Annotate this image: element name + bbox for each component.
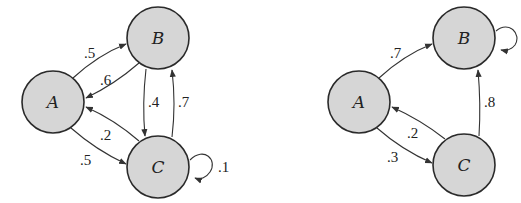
node-right-a: A — [328, 71, 390, 133]
node-left-c: C — [127, 136, 189, 198]
edge-label-left-a-to-b: .5 — [84, 45, 95, 61]
edge-left-c-to-b — [172, 70, 174, 137]
node-label-right-a: A — [351, 92, 365, 112]
node-right-c: C — [433, 134, 495, 196]
edge-left-c-to-a — [86, 107, 139, 141]
edge-right-a-to-b — [379, 44, 432, 78]
edge-left-b-to-a — [86, 63, 139, 98]
edge-label-left-c-self-loop: .1 — [218, 159, 229, 175]
node-left-b: B — [127, 7, 189, 69]
edge-label-right-c-to-a: .2 — [407, 125, 418, 141]
edge-left-c-self-loop — [190, 154, 212, 179]
left-markov-chain: .5 .6 .4 .7 .2 .5 .1 A B C — [22, 7, 229, 198]
edge-right-c-to-b — [478, 70, 480, 136]
edge-label-left-a-to-c: .5 — [80, 152, 91, 168]
node-label-right-b: B — [457, 28, 471, 48]
edge-label-right-a-to-c: .3 — [387, 149, 398, 165]
node-right-b: B — [433, 7, 495, 69]
edge-right-c-to-a — [392, 107, 445, 139]
node-label-left-a: A — [45, 92, 59, 112]
node-label-left-c: C — [151, 157, 164, 177]
edge-label-left-c-to-b: .7 — [178, 94, 190, 110]
edge-label-right-a-to-b: .7 — [390, 45, 402, 61]
node-label-right-c: C — [457, 155, 470, 175]
right-markov-chain: .7 .2 .3 .8 A B C — [328, 7, 517, 196]
edge-label-left-b-to-c: .4 — [148, 94, 160, 110]
diagram-canvas: .5 .6 .4 .7 .2 .5 .1 A B C .7 .2 .3 .8 — [0, 0, 521, 203]
edge-left-b-to-c — [144, 69, 146, 136]
edge-right-b-self-loop — [496, 27, 517, 50]
edge-label-left-b-to-a: .6 — [100, 72, 112, 88]
node-left-a: A — [22, 71, 84, 133]
edge-label-left-c-to-a: .2 — [100, 127, 111, 143]
node-label-left-b: B — [151, 28, 165, 48]
edge-right-a-to-c — [377, 128, 432, 163]
edge-label-right-c-to-b: .8 — [484, 94, 495, 110]
